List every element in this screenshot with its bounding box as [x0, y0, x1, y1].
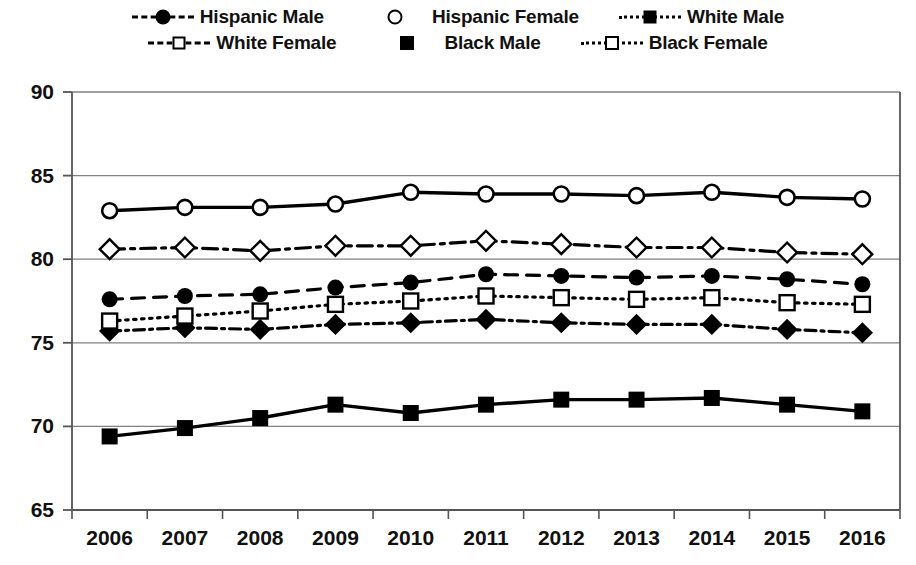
chart-container: Hispanic MaleHispanic FemaleWhite Male W… — [0, 0, 916, 565]
data-point — [102, 203, 117, 218]
data-point — [854, 403, 870, 419]
data-point — [554, 186, 569, 201]
data-point — [400, 312, 421, 333]
data-point — [478, 266, 494, 282]
data-point — [177, 200, 192, 215]
data-point — [102, 291, 118, 307]
data-point — [554, 290, 569, 305]
series-black-male — [102, 390, 871, 444]
x-axis-label: 2007 — [162, 526, 209, 550]
y-axis-label: 70 — [8, 414, 54, 438]
data-point — [403, 405, 419, 421]
data-point — [475, 309, 496, 330]
data-point — [403, 185, 418, 200]
data-point — [629, 392, 645, 408]
data-point — [479, 186, 494, 201]
data-point — [403, 275, 419, 291]
data-point — [780, 190, 795, 205]
y-axis-label: 85 — [8, 164, 54, 188]
y-axis-label: 75 — [8, 331, 54, 355]
data-point — [253, 304, 268, 319]
x-axis-label: 2011 — [463, 526, 509, 550]
x-axis-label: 2015 — [764, 526, 811, 550]
data-point — [627, 238, 647, 258]
data-point — [629, 292, 644, 307]
data-point — [327, 280, 343, 296]
x-axis-label: 2009 — [312, 526, 359, 550]
data-point — [102, 314, 117, 329]
data-point — [701, 314, 722, 335]
x-axis-label: 2006 — [86, 526, 133, 550]
data-point — [253, 200, 268, 215]
data-point — [551, 312, 572, 333]
data-point — [704, 185, 719, 200]
data-point — [551, 234, 571, 254]
data-point — [476, 231, 496, 251]
data-point — [626, 314, 647, 335]
data-point — [704, 290, 719, 305]
plot-area: 657075808590 200620072008200920102011201… — [0, 0, 916, 565]
data-point — [629, 270, 645, 286]
y-axis-label: 80 — [8, 247, 54, 271]
data-point — [855, 192, 870, 207]
data-point — [553, 268, 569, 284]
data-point — [252, 286, 268, 302]
data-point — [479, 288, 494, 303]
y-axis-label: 90 — [8, 80, 54, 104]
plot-svg — [0, 0, 916, 565]
data-point — [327, 397, 343, 413]
x-axis-label: 2012 — [538, 526, 585, 550]
data-point — [854, 276, 870, 292]
data-point — [250, 319, 271, 340]
data-point — [252, 410, 268, 426]
data-point — [102, 428, 118, 444]
data-point — [629, 188, 644, 203]
data-point — [325, 314, 346, 335]
data-point — [177, 420, 193, 436]
data-point — [478, 397, 494, 413]
data-point — [177, 309, 192, 324]
data-point — [328, 197, 343, 212]
x-axis-label: 2010 — [387, 526, 434, 550]
data-point — [403, 294, 418, 309]
data-point — [401, 236, 421, 256]
x-axis-label: 2013 — [613, 526, 660, 550]
data-point — [328, 297, 343, 312]
data-point — [175, 238, 195, 258]
data-point — [855, 297, 870, 312]
data-point — [250, 241, 270, 261]
data-point — [852, 244, 872, 264]
data-point — [702, 238, 722, 258]
x-axis-label: 2008 — [237, 526, 284, 550]
data-point — [704, 390, 720, 406]
data-point — [326, 236, 346, 256]
data-point — [780, 295, 795, 310]
series-hispanic-female — [102, 185, 870, 218]
data-point — [776, 319, 797, 340]
data-point — [779, 271, 795, 287]
data-point — [100, 239, 120, 259]
data-point — [704, 268, 720, 284]
x-axis-label: 2014 — [688, 526, 735, 550]
data-point — [779, 397, 795, 413]
data-point — [852, 322, 873, 343]
y-axis-label: 65 — [8, 498, 54, 522]
data-point — [177, 288, 193, 304]
x-axis-label: 2016 — [839, 526, 886, 550]
data-point — [553, 392, 569, 408]
